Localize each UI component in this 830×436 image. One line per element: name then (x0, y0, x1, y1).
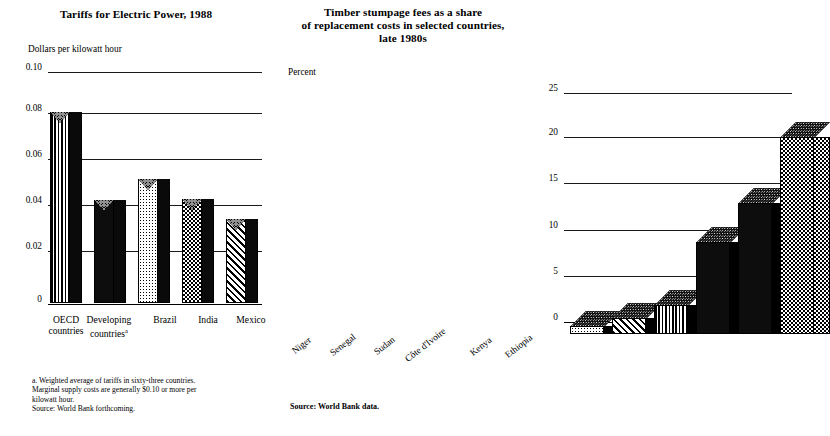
bar-india (182, 199, 214, 303)
ytick-label-0.02: 0.02 (8, 241, 42, 251)
left-chart-source: Source: World Bank forthcoming. (32, 404, 242, 413)
xlabel-brazil: Brazil (140, 315, 190, 326)
ytick-label-25: 25 (538, 83, 558, 93)
ytick-label-20: 20 (538, 127, 558, 137)
bar-oecd-countries (50, 112, 82, 303)
xlabel-senegal: Senegal (328, 332, 358, 358)
xlabel-india: India (184, 315, 232, 326)
left-chart-title: Tariffs for Electric Power, 1988 (0, 8, 272, 21)
ytick-label-15: 15 (538, 173, 558, 183)
left-chart-plot-area: 0.10 0.08 0.06 0.04 0.02 0 (48, 72, 262, 305)
right-chart-source: Source: World Bank data. (290, 402, 510, 411)
bar-developing-countries (94, 200, 126, 303)
ytick-label-0: 0 (8, 294, 42, 304)
left-chart-panel: Tariffs for Electric Power, 1988 Dollars… (0, 0, 272, 436)
xlabel-cote-divoire: Côte d'Ivoire (403, 326, 448, 364)
gridline-15 (564, 183, 792, 184)
xlabel-ethiopia: Ethiopia (503, 332, 534, 359)
right-chart-panel: Timber stumpage fees as a share of repla… (272, 0, 534, 436)
footnote-marker-a: a (125, 327, 128, 334)
xlabel-sudan: Sudan (372, 335, 397, 357)
right-chart-title: Timber stumpage fees as a share of repla… (272, 6, 534, 45)
right-chart-y-axis-unit-label: Percent (288, 67, 316, 78)
axis-baseline (48, 304, 262, 305)
bar-mexico (226, 219, 258, 303)
xlabel-niger: Niger (290, 335, 313, 356)
gridline-25 (564, 93, 792, 94)
left-chart-footnote: a. Weighted average of tariffs in sixty-… (32, 376, 242, 404)
ytick-label-5: 5 (538, 266, 558, 276)
xlabel-developing-countries: Developing countriesa (76, 315, 142, 339)
bar-brazil (138, 179, 170, 303)
xlabel-kenya: Kenya (468, 335, 493, 358)
gridline-0.10 (48, 72, 262, 73)
xlabel-mexico: Mexico (226, 315, 276, 326)
ytick-label-10: 10 (538, 220, 558, 230)
ytick-label-0: 0 (538, 312, 558, 322)
ytick-label-0.10: 0.10 (8, 62, 42, 72)
left-chart-y-axis-unit-label: Dollars per kilowatt hour (28, 44, 122, 55)
gridline-20 (564, 137, 792, 138)
ytick-label-0.04: 0.04 (8, 195, 42, 205)
ytick-label-0.06: 0.06 (8, 149, 42, 159)
ytick-label-0.08: 0.08 (8, 103, 42, 113)
right-chart-plot-area: 25 20 15 10 5 0 (564, 93, 792, 322)
